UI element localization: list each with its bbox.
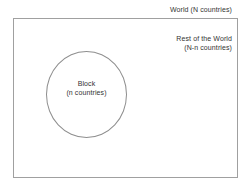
rest-of-the-world-label: Rest of the World (N-n countries) xyxy=(176,34,232,52)
block-label: Block (n countries) xyxy=(0,79,173,97)
diagram-canvas: World (N countries) Rest of the World (N… xyxy=(0,0,250,189)
rest-of-the-world-label-line2: (N-n countries) xyxy=(176,43,232,52)
block-label-line2: (n countries) xyxy=(0,88,173,97)
block-label-line1: Block xyxy=(0,79,173,88)
rest-of-the-world-label-line1: Rest of the World xyxy=(176,35,232,42)
world-label: World (N countries) xyxy=(170,5,232,14)
